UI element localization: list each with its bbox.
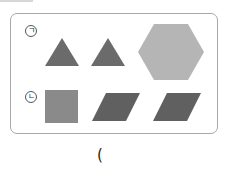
answer-blank: ( (97, 146, 103, 164)
hexagon-shape (137, 23, 205, 81)
square-shape (44, 89, 80, 124)
row-label-giyeok: ㄱ (25, 25, 37, 37)
triangle-shape-2 (90, 37, 126, 67)
open-paren: ( (97, 146, 103, 164)
row-label-text: ㄴ (28, 92, 35, 101)
triangle-shape-1 (44, 37, 80, 67)
parallelogram-shape-1 (91, 92, 141, 122)
parallelogram-shape-2 (152, 92, 202, 122)
top-divider (0, 0, 33, 2)
row-label-text: ㄱ (28, 26, 35, 35)
row-label-nieun: ㄴ (25, 91, 37, 103)
